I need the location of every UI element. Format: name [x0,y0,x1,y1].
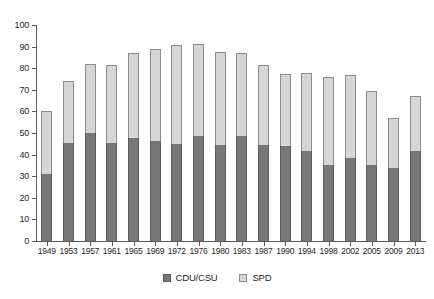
bar-group [388,118,399,241]
bar-segment-cdu-csu [280,146,291,241]
bar-group [345,75,356,241]
bar-group [236,53,247,241]
bar-segment-cdu-csu [128,138,139,241]
legend-item-spd: SPD [239,272,271,283]
bar-segment-cdu-csu [63,143,74,241]
y-axis-tick [32,133,36,134]
bar-group [106,65,117,241]
bar-segment-spd [41,111,52,174]
bar-segment-cdu-csu [236,136,247,241]
y-axis-tick [32,219,36,220]
y-axis-tick [32,90,36,91]
bar-segment-spd [345,75,356,158]
x-axis-tick-label: 1998 [320,246,338,256]
bar-segment-cdu-csu [388,168,399,241]
bar-segment-spd [85,64,96,133]
bar-segment-cdu-csu [171,144,182,241]
bar-group [301,73,312,241]
bar-segment-cdu-csu [41,174,52,241]
x-axis-tick-label: 1972 [168,246,186,256]
x-axis-tick-label: 2009 [385,246,403,256]
bar-group [258,65,269,241]
x-axis-tick-label: 1969 [146,246,164,256]
chart-legend: CDU/CSU SPD [0,272,434,283]
bar-segment-spd [258,65,269,145]
bar-segment-cdu-csu [366,165,377,241]
x-axis-tick-label: 1953 [60,246,78,256]
bar-segment-spd [366,91,377,165]
y-axis-tick-label: 80 [19,63,29,73]
y-axis-tick-label: 50 [19,128,29,138]
bar-segment-spd [236,53,247,136]
x-axis-tick-label: 1961 [103,246,121,256]
bar-group [366,91,377,241]
y-axis-tick [32,155,36,156]
bar-segment-spd [215,52,226,145]
y-axis-tick-label: 20 [19,193,29,203]
spd-swatch-icon [239,274,247,282]
bar-segment-cdu-csu [301,151,312,241]
bar-group [150,49,161,241]
bar-segment-cdu-csu [258,145,269,241]
x-axis-tick-label: 1976 [190,246,208,256]
y-axis-tick-label: 60 [19,106,29,116]
bar-group [193,44,204,241]
x-axis-tick-label: 1994 [298,246,316,256]
legend-item-cdu-csu: CDU/CSU [163,272,218,283]
bar-segment-spd [193,44,204,136]
y-axis-tick-label: 100 [15,20,29,30]
y-axis-tick [32,111,36,112]
bar-segment-cdu-csu [193,136,204,241]
bar-segment-cdu-csu [410,151,421,241]
bar-group [85,64,96,241]
bar-segment-cdu-csu [345,158,356,241]
bar-segment-cdu-csu [106,143,117,241]
x-axis-tick-label: 2005 [363,246,381,256]
y-axis-tick [32,176,36,177]
plot-area: 0102030405060708090100 [36,25,426,241]
bar-segment-spd [323,77,334,165]
bar-group [323,77,334,241]
x-axis-tick-label: 1957 [81,246,99,256]
stacked-bar-chart: 0102030405060708090100 CDU/CSU SPD 19491… [0,0,434,299]
y-axis-tick-label: 40 [19,150,29,160]
bar-segment-spd [63,81,74,143]
y-axis-tick-label: 70 [19,85,29,95]
y-axis-tick-label: 0 [24,236,29,246]
bar-group [128,53,139,241]
bar-segment-spd [388,118,399,168]
x-axis-tick-label: 1987 [255,246,273,256]
bar-segment-spd [128,53,139,138]
bar-segment-spd [280,74,291,146]
bar-group [171,45,182,241]
x-axis-tick-label: 1983 [233,246,251,256]
x-axis-tick-label: 2013 [406,246,424,256]
bar-group [410,96,421,241]
bar-segment-spd [301,73,312,152]
bar-segment-cdu-csu [150,141,161,241]
bar-segment-spd [106,65,117,143]
bar-group [215,52,226,241]
bar-segment-cdu-csu [323,165,334,241]
y-axis-tick-label: 30 [19,171,29,181]
x-axis-tick-label: 1965 [125,246,143,256]
bar-group [63,81,74,241]
y-axis-tick [32,241,36,242]
y-axis-tick-label: 90 [19,42,29,52]
bar-segment-spd [410,96,421,151]
x-axis-line [36,241,426,242]
bar-group [41,111,52,241]
x-axis-tick-label: 1949 [38,246,56,256]
bar-segment-spd [150,49,161,141]
y-axis-tick [32,68,36,69]
bar-segment-cdu-csu [85,133,96,241]
y-axis-tick-label: 10 [19,214,29,224]
cdu-csu-swatch-icon [163,274,171,282]
legend-label-spd: SPD [252,272,271,283]
x-axis-tick-label: 1990 [276,246,294,256]
y-axis-tick [32,198,36,199]
bar-segment-cdu-csu [215,145,226,241]
legend-label-cdu-csu: CDU/CSU [176,272,218,283]
bar-group [280,74,291,241]
x-axis-tick-label: 2002 [341,246,359,256]
